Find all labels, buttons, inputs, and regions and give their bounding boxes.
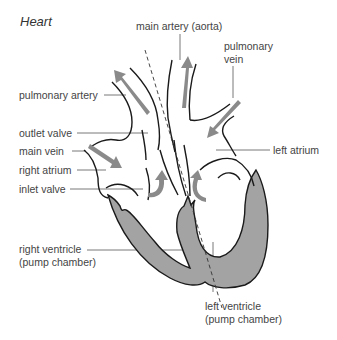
arrow-main-vein-icon	[88, 144, 122, 168]
heart-diagram: Heart main artery (aorta) pulmonary vein…	[0, 0, 337, 340]
label-main-vein: main vein	[19, 145, 64, 158]
blood-flow-arrows	[88, 56, 241, 202]
diagram-title: Heart	[20, 14, 52, 29]
label-left-ventricle-line2: (pump chamber)	[205, 313, 282, 326]
arrow-inlet-right-icon	[148, 170, 168, 197]
heart-outline	[84, 60, 254, 200]
label-inlet-valve: inlet valve	[19, 183, 66, 196]
label-pulmonary-artery: pulmonary artery	[19, 89, 98, 102]
label-left-atrium: left atrium	[273, 144, 319, 157]
label-pulmonary-vein-line1: pulmonary	[224, 40, 273, 53]
ventricle-muscle	[108, 170, 268, 288]
arrow-inlet-left-icon	[190, 170, 206, 202]
label-right-ventricle-line2: (pump chamber)	[19, 256, 96, 269]
label-outlet-valve: outlet valve	[19, 127, 72, 140]
arrow-pulmonary-artery-icon	[114, 70, 150, 115]
label-left-ventricle-line1: left ventricle	[205, 300, 261, 313]
label-main-artery: main artery (aorta)	[136, 20, 222, 33]
label-right-atrium: right atrium	[19, 164, 72, 177]
label-pulmonary-vein-line2: vein	[224, 53, 243, 66]
label-right-ventricle-line1: right ventricle	[19, 243, 81, 256]
arrow-pulmonary-vein-icon	[207, 100, 241, 138]
